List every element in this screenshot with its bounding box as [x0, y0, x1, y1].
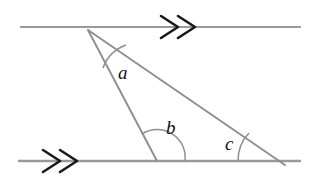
triangle-hypotenuse — [88, 30, 285, 165]
angle-label-b: b — [166, 117, 176, 138]
angle-label-a: a — [118, 62, 128, 83]
geometry-diagram: a b c — [0, 0, 316, 185]
triangle-left-leg — [88, 30, 157, 161]
angle-label-c: c — [225, 133, 234, 154]
geometry-canvas: a b c — [0, 0, 316, 185]
